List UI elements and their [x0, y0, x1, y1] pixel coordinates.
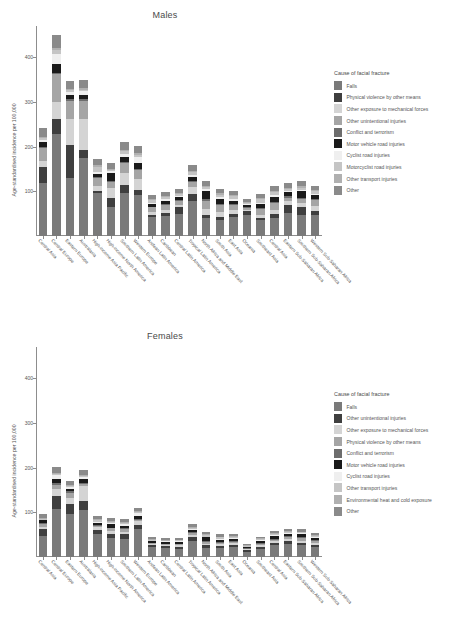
- legend-item[interactable]: Other transport injuries: [331, 482, 463, 494]
- bar-segment: [52, 54, 60, 64]
- legend-item[interactable]: Physical violence by other means: [331, 92, 463, 104]
- stacked-bar[interactable]: [161, 538, 169, 557]
- legend-item[interactable]: Other exposure to mechanical forces: [331, 424, 463, 436]
- legend-item[interactable]: Cyclist road injuries: [331, 471, 463, 483]
- stacked-bar[interactable]: [52, 467, 60, 557]
- stacked-bar[interactable]: [175, 189, 183, 236]
- stacked-bar[interactable]: [229, 534, 237, 557]
- stacked-bar[interactable]: [270, 186, 278, 236]
- stacked-bar[interactable]: [229, 191, 237, 236]
- bar-segment: [52, 64, 60, 73]
- legend-item[interactable]: Motor vehicle road injuries: [331, 138, 463, 150]
- stacked-bar[interactable]: [243, 199, 251, 236]
- legend-item[interactable]: Other: [331, 505, 463, 517]
- stacked-bar[interactable]: [93, 159, 101, 236]
- legend-item[interactable]: Physical violence by other means: [331, 436, 463, 448]
- bar-group-males: [36, 26, 322, 236]
- stacked-bar[interactable]: [297, 181, 305, 236]
- stacked-bar[interactable]: [202, 532, 210, 557]
- legend-item[interactable]: Other: [331, 184, 463, 196]
- legend-item[interactable]: Falls: [331, 401, 463, 413]
- legend-swatch: [334, 437, 342, 446]
- stacked-bar[interactable]: [39, 128, 47, 236]
- legend-item[interactable]: Falls: [331, 80, 463, 92]
- stacked-bar[interactable]: [134, 508, 142, 557]
- legend-swatch: [334, 483, 342, 492]
- stacked-bar[interactable]: [148, 195, 156, 236]
- bar-segment: [297, 215, 305, 236]
- bar-segment: [175, 549, 183, 557]
- stacked-bar[interactable]: [256, 194, 264, 236]
- bar-segment: [284, 213, 292, 236]
- bar-segment: [52, 509, 60, 557]
- stacked-bar[interactable]: [148, 537, 156, 557]
- bar-segment: [79, 101, 87, 120]
- bar-segment: [202, 548, 210, 557]
- legend-item[interactable]: Other transport injuries: [331, 173, 463, 185]
- stacked-bar[interactable]: [256, 537, 264, 557]
- bar-segment: [52, 119, 60, 134]
- legend-label: Other transport injuries: [347, 485, 398, 491]
- bar-segment: [297, 207, 305, 215]
- legend-item[interactable]: Environmental heat and cold exposure: [331, 494, 463, 506]
- stacked-bar[interactable]: [311, 533, 319, 558]
- legend-item[interactable]: Other exposure to mechanical forces: [331, 103, 463, 115]
- bar-segment: [188, 194, 196, 202]
- legend-item[interactable]: Motorcyclist road injuries: [331, 161, 463, 173]
- stacked-bar[interactable]: [216, 534, 224, 557]
- stacked-bar[interactable]: [79, 470, 87, 557]
- bar-segment: [39, 183, 47, 236]
- stacked-bar[interactable]: [107, 163, 115, 236]
- bar-segment: [79, 158, 87, 236]
- stacked-bar[interactable]: [66, 81, 74, 236]
- stacked-bar[interactable]: [107, 518, 115, 557]
- bar-segment: [134, 146, 142, 154]
- legend-swatch: [334, 93, 342, 102]
- stacked-bar[interactable]: [216, 189, 224, 236]
- bar-segment: [66, 119, 74, 145]
- legend-item[interactable]: Conflict and terrorism: [331, 447, 463, 459]
- legend-item[interactable]: Conflict and terrorism: [331, 126, 463, 138]
- stacked-bar[interactable]: [93, 516, 101, 557]
- y-tick-label: 200: [25, 465, 33, 471]
- legend-label: Motor vehicle road injuries: [347, 141, 405, 147]
- bar-segment: [120, 193, 128, 236]
- stacked-bar[interactable]: [120, 519, 128, 557]
- stacked-bar[interactable]: [270, 531, 278, 557]
- stacked-bar[interactable]: [134, 146, 142, 236]
- legend-item[interactable]: Motor vehicle road injuries: [331, 459, 463, 471]
- stacked-bar[interactable]: [39, 514, 47, 557]
- stacked-bar[interactable]: [175, 538, 183, 557]
- legend-item[interactable]: Other unintentional injuries: [331, 115, 463, 127]
- chart-title-males: Males: [0, 10, 330, 20]
- stacked-bar[interactable]: [161, 192, 169, 236]
- legend-swatch: [334, 449, 342, 458]
- bar-segment: [93, 534, 101, 557]
- bar-segment: [134, 179, 142, 190]
- stacked-bar[interactable]: [284, 529, 292, 557]
- stacked-bar[interactable]: [66, 481, 74, 557]
- legend-label: Falls: [347, 83, 358, 89]
- bar-segment: [79, 80, 87, 88]
- bar-segment: [148, 217, 156, 236]
- stacked-bar[interactable]: [311, 186, 319, 236]
- legend-item[interactable]: Cyclist road injuries: [331, 150, 463, 162]
- stacked-bar[interactable]: [297, 529, 305, 557]
- stacked-bar[interactable]: [52, 35, 60, 236]
- bar-segment: [107, 188, 115, 198]
- stacked-bar[interactable]: [202, 181, 210, 236]
- bar-segment: [216, 548, 224, 557]
- stacked-bar[interactable]: [188, 165, 196, 236]
- bar-segment: [52, 74, 60, 102]
- stacked-bar[interactable]: [79, 80, 87, 236]
- legend-label: Physical violence by other means: [347, 94, 421, 100]
- stacked-bar[interactable]: [284, 183, 292, 236]
- stacked-bar[interactable]: [120, 142, 128, 236]
- stacked-bar[interactable]: [243, 544, 251, 557]
- bar-segment: [134, 529, 142, 557]
- legend-item[interactable]: Other unintentional injuries: [331, 413, 463, 425]
- stacked-bar[interactable]: [188, 524, 196, 557]
- legend-label: Motorcyclist road injuries: [347, 164, 402, 170]
- legend-label: Environmental heat and cold exposure: [347, 497, 432, 503]
- bar-segment: [107, 198, 115, 207]
